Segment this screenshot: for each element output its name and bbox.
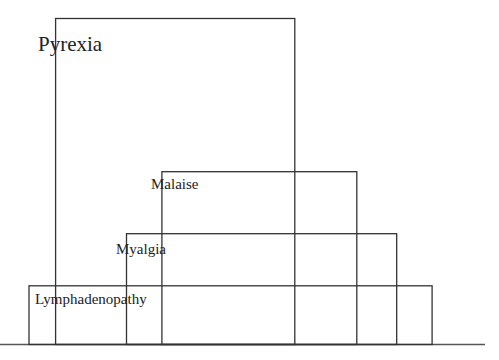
symptom-box-chart: Pyrexia Malaise Myalgia Lymphadenopathy xyxy=(0,0,499,360)
label-lymphadenopathy: Lymphadenopathy xyxy=(35,291,147,307)
label-malaise: Malaise xyxy=(151,176,199,192)
box-malaise xyxy=(162,172,357,345)
label-pyrexia: Pyrexia xyxy=(38,32,103,56)
label-myalgia: Myalgia xyxy=(116,241,166,257)
